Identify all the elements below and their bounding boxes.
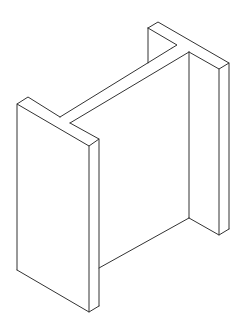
web xyxy=(60,48,189,268)
front-flange-top-outline xyxy=(17,97,99,146)
web-top-back-edge xyxy=(60,48,172,117)
i-beam-drawing xyxy=(0,0,242,330)
back-flange-bottom xyxy=(189,218,229,235)
web-top-front-edge xyxy=(70,52,189,123)
front-flange xyxy=(17,97,99,312)
front-flange-bottom xyxy=(17,270,99,312)
web-bottom-edge xyxy=(99,218,189,268)
